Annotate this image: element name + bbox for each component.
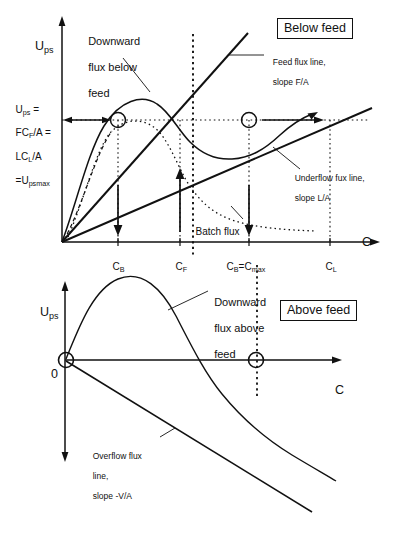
cb-sub: B <box>120 265 125 274</box>
xaxis-label-lower-text: C <box>335 383 344 397</box>
xtick-label-cf: CF <box>170 249 187 273</box>
panel-label-above-feed: Above feed <box>280 300 357 321</box>
xtick-label-cb-cmax: CB=Cmax <box>221 249 265 273</box>
above-feed-line-2: flux above <box>214 322 264 334</box>
ups-sub-1: ps <box>23 108 31 117</box>
annotation-line-2: flux below <box>88 61 137 73</box>
y-axis-arrowhead-lower-down <box>62 452 69 462</box>
origin-zero-text: 0 <box>51 367 58 381</box>
yaxis-label-upper: Ups <box>28 24 54 54</box>
panel-label-above-feed-text: Above feed <box>287 303 350 317</box>
cb-sub-2: B <box>234 265 239 274</box>
annotation-downward-flux-above-feed: Downward flux above feed <box>208 283 266 361</box>
cmax-sub: max <box>252 265 266 274</box>
feed-flux-line-1: Feed flux line, <box>273 57 326 67</box>
downward-flux-below-feed-curve <box>62 99 312 242</box>
cf-tick-sub: F <box>183 265 187 274</box>
xtick-label-cl: CL <box>320 249 337 273</box>
annotation-downward-flux-below-feed: Downward flux below feed <box>82 22 140 100</box>
overflow-line-2: line, <box>93 471 109 481</box>
above-feed-line-3: feed <box>214 348 235 360</box>
batch-flux-text: Batch flux <box>196 226 240 237</box>
yaxis-label-lower: Ups <box>33 290 59 320</box>
downward-flux-above-leader <box>168 291 208 310</box>
cb-down-arrow <box>114 185 123 236</box>
cl-sub: L <box>28 155 32 164</box>
annotation-feed-flux-line: Feed flux line, slope F/A <box>268 47 326 87</box>
annotation-batch-flux: Batch flux <box>190 214 239 238</box>
level-arrow-left <box>63 117 111 123</box>
origin-zero-label: 0 <box>44 352 58 382</box>
panel-label-below-feed-text: Below feed <box>284 21 346 35</box>
annotation-overflow-flux-line: Overflow flux line, slope -V/A <box>88 441 142 501</box>
x-axis-arrowhead-upper <box>370 239 380 246</box>
x-axis-arrowhead-lower <box>332 357 342 364</box>
cl-tick-sub: L <box>333 265 337 274</box>
y-axis-arrowhead-lower <box>62 281 69 291</box>
upsmax-sub: psmax <box>29 179 50 188</box>
overflow-line-3: slope -V/A <box>93 491 132 501</box>
operating-flux-level-label: Ups = FCF/A = LCL/A =Upsmax <box>10 92 51 186</box>
annotation-line-1: Downward <box>88 35 140 47</box>
xaxis-label-upper-text: C <box>362 235 371 249</box>
cf-up-arrow <box>176 168 185 232</box>
underflow-flux-line-1: Underflow fux line, <box>295 173 365 183</box>
underflow-flux-line-2: slope L/A <box>295 193 330 203</box>
xtick-label-cb: CB <box>107 249 125 273</box>
yaxis-label-upper-sub: ps <box>44 44 54 54</box>
y-axis-arrowhead-upper <box>59 16 66 26</box>
cmax-down-arrow <box>245 185 254 236</box>
xaxis-label-upper: C <box>355 220 371 250</box>
cf-sub: F <box>29 131 33 140</box>
panel-label-below-feed: Below feed <box>277 18 353 39</box>
level-arrow-right <box>262 117 324 124</box>
overflow-line-1: Overflow flux <box>93 451 142 461</box>
xaxis-label-lower: C <box>328 368 344 398</box>
above-feed-line-1: Downward <box>214 296 266 308</box>
feed-flux-line-2: slope F/A <box>273 77 309 87</box>
yaxis-label-lower-sub: ps <box>49 310 59 320</box>
overflow-flux-leader <box>160 428 175 437</box>
annotation-underflow-flux-line: Underflow fux line, slope L/A <box>290 163 365 203</box>
annotation-line-3: feed <box>88 87 109 99</box>
